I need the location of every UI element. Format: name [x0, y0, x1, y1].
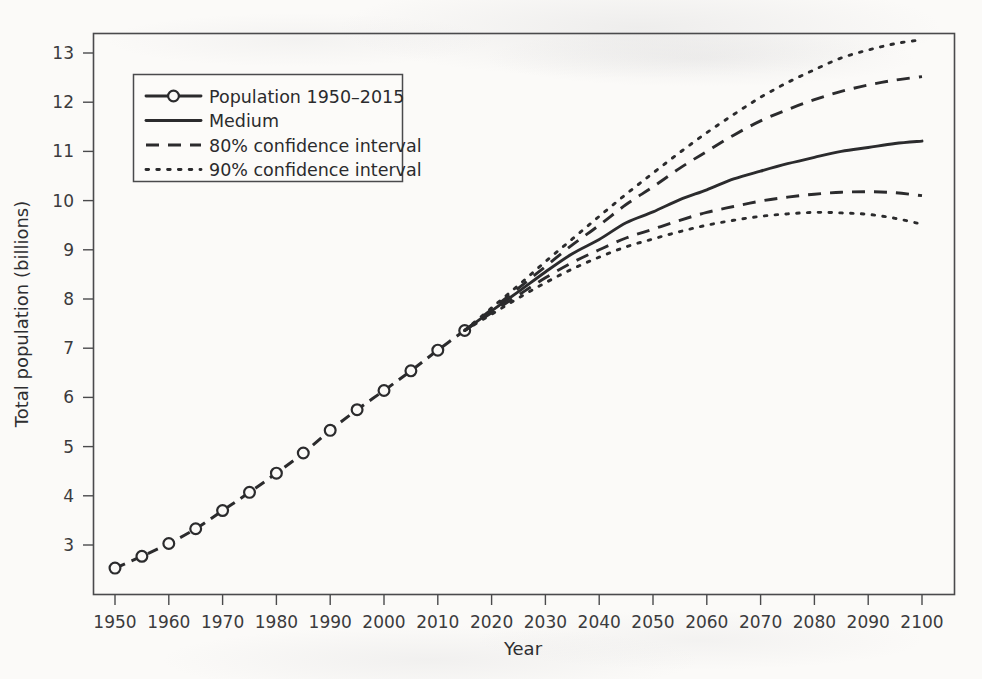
series-path	[465, 40, 922, 331]
y-tick-label: 11	[52, 141, 74, 161]
x-tick-label: 2070	[739, 612, 782, 632]
series-path	[465, 77, 922, 331]
x-tick-label: 2080	[793, 612, 836, 632]
y-tick-label: 4	[63, 486, 74, 506]
data-point-marker	[406, 365, 417, 376]
legend-label: 80% confidence interval	[209, 136, 422, 156]
data-point-marker	[163, 538, 174, 549]
data-point-marker	[244, 487, 255, 498]
data-point-marker	[110, 563, 121, 574]
chart-legend: Population 1950–2015Medium80% confidence…	[134, 75, 422, 182]
legend-label: 90% confidence interval	[209, 160, 422, 180]
y-tick-label: 7	[63, 338, 74, 358]
population-projection-chart: 1950196019701980199020002010202020302040…	[0, 0, 982, 679]
figure-page: 1950196019701980199020002010202020302040…	[0, 0, 982, 679]
data-point-marker	[217, 505, 228, 516]
y-axis-title: Total population (billions)	[11, 201, 32, 429]
data-point-marker	[271, 468, 282, 479]
y-tick-label: 6	[63, 387, 74, 407]
x-tick-label: 2100	[900, 612, 943, 632]
x-tick-label: 1980	[255, 612, 298, 632]
data-point-marker	[325, 425, 336, 436]
legend-label: Medium	[209, 111, 279, 131]
y-tick-label: 5	[63, 437, 74, 457]
x-tick-label: 2040	[578, 612, 621, 632]
x-tick-label: 2090	[847, 612, 890, 632]
data-point-marker	[352, 404, 363, 415]
data-point-marker	[432, 345, 443, 356]
x-tick-label: 2000	[362, 612, 405, 632]
x-tick-label: 2020	[470, 612, 513, 632]
y-tick-label: 13	[52, 43, 74, 63]
x-tick-label: 2060	[685, 612, 728, 632]
x-tick-label: 1970	[201, 612, 244, 632]
data-point-marker	[137, 551, 148, 562]
x-tick-label: 1950	[93, 612, 136, 632]
x-axis-title: Year	[503, 638, 543, 659]
series-path	[465, 212, 922, 330]
y-tick-label: 10	[52, 191, 74, 211]
x-tick-label: 1990	[309, 612, 352, 632]
series-path	[465, 141, 922, 330]
x-tick-label: 1960	[147, 612, 190, 632]
legend-sample-marker	[168, 91, 179, 102]
x-tick-label: 2030	[524, 612, 567, 632]
x-tick-label: 2010	[416, 612, 459, 632]
y-tick-label: 9	[63, 240, 74, 260]
data-point-marker	[298, 448, 309, 459]
data-point-marker	[379, 385, 390, 396]
y-tick-label: 12	[52, 92, 74, 112]
y-tick-label: 3	[63, 535, 74, 555]
data-point-marker	[190, 523, 201, 534]
legend-label: Population 1950–2015	[209, 87, 404, 107]
y-tick-label: 8	[63, 289, 74, 309]
x-tick-label: 2050	[631, 612, 674, 632]
